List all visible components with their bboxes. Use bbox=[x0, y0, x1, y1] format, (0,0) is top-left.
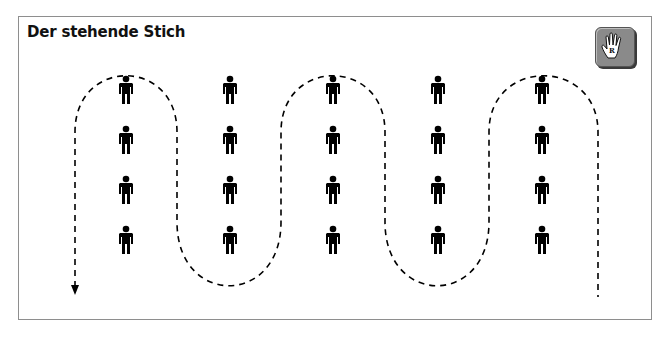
standing-person-icon bbox=[326, 176, 340, 204]
standing-person-icon bbox=[119, 226, 133, 254]
standing-person-icon bbox=[223, 226, 237, 254]
figures-grid bbox=[119, 76, 549, 254]
diagram-frame: Der stehende Stich R bbox=[18, 16, 652, 320]
standing-person-icon bbox=[431, 126, 445, 154]
standing-person-icon bbox=[119, 126, 133, 154]
standing-person-icon bbox=[326, 226, 340, 254]
standing-person-icon bbox=[535, 76, 549, 104]
standing-person-icon bbox=[431, 226, 445, 254]
standing-person-icon bbox=[535, 176, 549, 204]
standing-person-icon bbox=[431, 76, 445, 104]
standing-person-icon bbox=[326, 126, 340, 154]
standing-person-icon bbox=[326, 76, 340, 104]
arrow-down-icon bbox=[71, 285, 79, 295]
standing-person-icon bbox=[223, 126, 237, 154]
standing-person-icon bbox=[119, 76, 133, 104]
standing-person-icon bbox=[223, 176, 237, 204]
standing-person-icon bbox=[535, 126, 549, 154]
standing-person-icon bbox=[119, 176, 133, 204]
standing-person-icon bbox=[431, 176, 445, 204]
serpentine-diagram bbox=[19, 17, 653, 321]
standing-person-icon bbox=[535, 226, 549, 254]
standing-person-icon bbox=[223, 76, 237, 104]
